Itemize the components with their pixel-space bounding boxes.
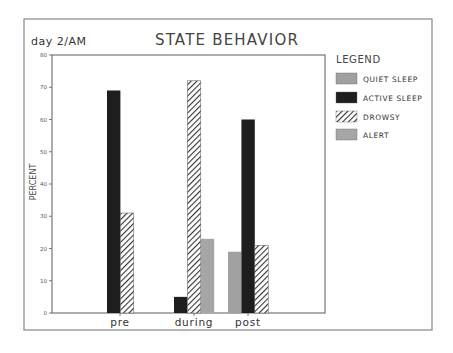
legend-label-drowsy: DROWSY	[363, 113, 400, 122]
chart-subtitle: day 2/AM	[31, 35, 86, 48]
y-tick-label: 70	[40, 84, 47, 90]
legend-label-alert: ALERT	[363, 131, 389, 140]
legend-swatch-alert	[336, 129, 357, 140]
bar-during-drowsy	[187, 81, 200, 313]
bar-during-active-sleep	[174, 297, 187, 313]
y-tick-label: 30	[40, 213, 47, 219]
bar-post-drowsy	[255, 245, 268, 313]
y-tick-label: 20	[40, 246, 47, 252]
legend-label-active-sleep: ACTIVE SLEEP	[363, 94, 422, 103]
x-label-pre: pre	[110, 316, 130, 328]
y-tick-label: 10	[40, 278, 47, 284]
legend-swatch-drowsy	[336, 111, 357, 122]
bar-pre-drowsy	[120, 213, 133, 313]
x-axis-labels: preduringpost	[110, 313, 261, 328]
legend-swatch-quiet-sleep	[336, 73, 357, 84]
bar-post-active-sleep	[241, 120, 254, 314]
y-axis-label: PERCENT	[29, 164, 38, 201]
y-tick-label: 60	[40, 117, 47, 123]
bar-pre-active-sleep	[107, 90, 120, 313]
legend: LEGEND QUIET SLEEPACTIVE SLEEPDROWSYALER…	[336, 54, 422, 140]
y-tick-label: 0	[44, 310, 48, 316]
bar-during-alert	[201, 239, 214, 313]
y-tick-label: 40	[40, 181, 47, 187]
chart-title: STATE BEHAVIOR	[155, 31, 299, 49]
x-label-during: during	[175, 316, 214, 328]
y-axis-ticks: 01020304050607080	[40, 52, 52, 316]
y-tick-label: 80	[40, 52, 47, 58]
bar-post-quiet-sleep	[228, 252, 241, 313]
legend-label-quiet-sleep: QUIET SLEEP	[363, 75, 418, 84]
legend-swatch-active-sleep	[336, 92, 357, 103]
y-tick-label: 50	[40, 149, 47, 155]
x-label-post: post	[235, 316, 261, 328]
legend-title: LEGEND	[336, 54, 381, 65]
bars	[107, 81, 268, 313]
chart-container: day 2/AM STATE BEHAVIOR PERCENT 01020304…	[0, 0, 453, 353]
state-behavior-chart: day 2/AM STATE BEHAVIOR PERCENT 01020304…	[0, 0, 453, 353]
